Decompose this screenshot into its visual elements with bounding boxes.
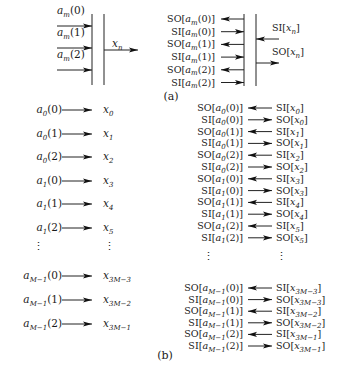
target-label: x3 [103, 174, 114, 189]
source-label: a0(1) [36, 127, 62, 142]
port-label: SO[am(2)] [167, 64, 215, 78]
port-label: SI[am(0)] [171, 26, 215, 40]
mapping-diagram: am(0)am(1)am(2)xnSO[am(0)]SI[am(0)]SO[am… [0, 0, 348, 376]
target-label: x4 [103, 197, 113, 212]
input-label: am(2) [57, 48, 85, 63]
panel-a: am(0)am(1)am(2)xnSO[am(0)]SI[am(0)]SO[am… [57, 4, 304, 103]
port-label: SO[am(0)] [167, 13, 215, 27]
target-label: x1 [103, 127, 113, 142]
ellipsis: ⋮ [104, 240, 115, 252]
source-label: a0(0) [36, 103, 62, 118]
target-label: x2 [103, 150, 114, 165]
target-label: x5 [103, 221, 114, 236]
source-label: a1(0) [36, 174, 62, 189]
ellipsis: ⋮ [203, 250, 214, 262]
target-label: x3M−3 [103, 269, 131, 284]
source-port-label: SI[aM−1(2)] [188, 340, 243, 354]
element-port-label: SI[xn] [272, 22, 300, 36]
source-label: a1(2) [36, 221, 62, 236]
port-label: SI[am(2)] [171, 77, 215, 91]
target-label: x3M−1 [103, 317, 131, 332]
target-label: x0 [103, 103, 114, 118]
port-label: SI[am(1)] [171, 51, 215, 65]
input-label: am(0) [57, 4, 85, 19]
ellipsis: ⋮ [33, 240, 44, 252]
target-port-label: SO[x5] [276, 232, 308, 246]
panel-b: a0(0)x0a0(1)x1a0(2)x2a1(0)x3a1(1)x4a1(2)… [23, 102, 325, 362]
input-label: am(1) [57, 26, 85, 41]
source-label: a0(2) [36, 150, 62, 165]
source-label: aM−1(0) [23, 269, 62, 284]
element-port-label: SO[xn] [272, 46, 304, 60]
source-label: aM−1(1) [23, 293, 62, 308]
output-label: xn [112, 37, 123, 52]
target-port-label: SO[x3M−1] [276, 340, 325, 354]
caption-b: (b) [157, 349, 173, 362]
source-port-label: SI[a1(2)] [201, 232, 243, 246]
ellipsis: ⋮ [276, 250, 287, 262]
source-label: a1(1) [36, 197, 62, 212]
source-label: aM−1(2) [23, 317, 62, 332]
port-label: SO[am(1)] [167, 38, 215, 52]
caption-a: (a) [163, 90, 178, 103]
target-label: x3M−2 [103, 293, 131, 308]
